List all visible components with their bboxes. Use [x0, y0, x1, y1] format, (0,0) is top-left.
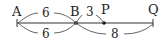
label-q: Q [148, 2, 159, 17]
length-bp: 3 [86, 5, 94, 19]
label-p: P [101, 2, 110, 17]
label-b: B [70, 4, 80, 19]
arc-ab-bottom-left [18, 23, 38, 33]
arc-bq-bottom-left [76, 23, 106, 34]
label-a: A [11, 4, 22, 19]
length-ab-top: 6 [42, 6, 50, 20]
length-ab-bottom: 6 [42, 27, 50, 41]
length-bq: 8 [111, 27, 119, 41]
arc-ab-bottom-right [54, 23, 76, 33]
segment-diagram: A B P Q 6 6 3 8 [0, 0, 168, 43]
arc-bq-bottom-right [124, 24, 153, 34]
